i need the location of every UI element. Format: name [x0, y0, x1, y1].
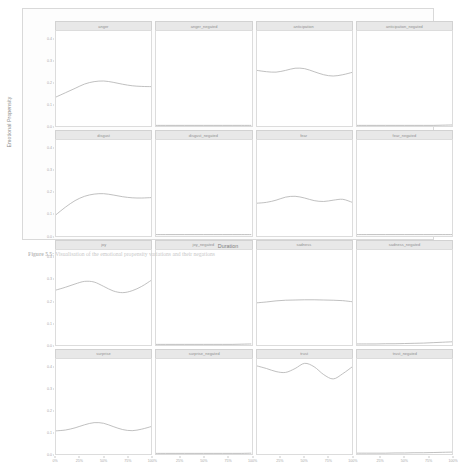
facet-cell-disgust_negated: disgust_negated — [155, 130, 252, 236]
x-tick-mark — [453, 456, 454, 458]
y-tick-mark — [53, 38, 55, 39]
x-tick-mark — [152, 456, 153, 458]
facet-panel-anticipation[interactable] — [256, 30, 353, 127]
facet-cell-trust_negated: 25%50%75%100%trust_negated — [356, 349, 453, 455]
x-tick-label: 50% — [401, 459, 408, 463]
facet-panel-disgust_negated[interactable] — [155, 139, 252, 236]
y-axis-title: Emotional Propensity — [2, 62, 16, 182]
x-tick-mark — [352, 456, 353, 458]
facet-panel-joy_negated[interactable] — [155, 249, 252, 346]
x-tick-mark — [55, 456, 56, 458]
y-tick-label: 0.2 — [47, 300, 52, 304]
facet-strip-fear_negated: fear_negated — [356, 130, 453, 139]
y-tick-mark — [53, 323, 55, 324]
facet-panel-joy[interactable] — [55, 249, 152, 346]
facet-strip-label: anticipation_negated — [386, 24, 423, 29]
y-tick-mark — [53, 301, 55, 302]
facet-cell-anger_negated: anger_negated — [155, 21, 252, 127]
facet-panel-anger[interactable] — [55, 30, 152, 127]
x-tick-mark — [252, 456, 253, 458]
y-tick-mark — [53, 127, 55, 128]
x-tick-label: 75% — [425, 459, 432, 463]
y-tick-mark — [53, 236, 55, 237]
series-line-disgust — [56, 194, 151, 215]
x-tick-mark — [203, 456, 204, 458]
y-tick-label: 0.4 — [47, 365, 52, 369]
facet-strip-label: fear — [301, 133, 308, 138]
series-line-surprise — [56, 422, 151, 430]
facet-panel-anger_negated[interactable] — [155, 30, 252, 127]
facet-cell-anticipation: anticipation — [256, 21, 353, 127]
y-tick-label: 0.4 — [47, 146, 52, 150]
facet-panel-trust[interactable] — [256, 358, 353, 455]
facet-strip-surprise_negated: surprise_negated — [155, 349, 252, 358]
facet-cell-surprise: 0.00.10.20.30.40%25%50%75%100%surprise — [55, 349, 152, 455]
plot-frame: 0.00.10.20.30.4angeranger_negatedanticip… — [22, 8, 434, 240]
y-tick-label: 0.1 — [47, 212, 52, 216]
facet-panel-surprise_negated[interactable] — [155, 358, 252, 455]
facet-strip-label: fear_negated — [393, 133, 416, 138]
y-tick-label: 0.3 — [47, 59, 52, 63]
y-tick-label: 0.4 — [47, 37, 52, 41]
x-tick-mark — [380, 456, 381, 458]
x-tick-mark — [179, 456, 180, 458]
y-tick-label: 0.3 — [47, 387, 52, 391]
y-tick-mark — [53, 214, 55, 215]
facet-strip-anticipation: anticipation — [256, 21, 353, 30]
facet-panel-surprise[interactable] — [55, 358, 152, 455]
x-tick-mark — [304, 456, 305, 458]
y-tick-label: 0.1 — [47, 103, 52, 107]
x-axis-title: Duration — [22, 243, 434, 249]
facet-strip-label: disgust — [97, 133, 110, 138]
facet-strip-label: surprise_negated — [188, 351, 219, 356]
x-tick-mark — [404, 456, 405, 458]
y-tick-mark — [53, 83, 55, 84]
facet-panel-trust_negated[interactable] — [356, 358, 453, 455]
y-tick-mark — [53, 60, 55, 61]
x-tick-label: 100% — [448, 459, 457, 463]
y-tick-mark — [53, 366, 55, 367]
facet-strip-surprise: surprise — [55, 349, 152, 358]
x-tick-mark — [228, 456, 229, 458]
series-line-anticipation — [257, 68, 352, 76]
series-line-trust — [257, 363, 352, 379]
facet-cell-disgust: 0.00.10.20.30.4disgust — [55, 130, 152, 236]
y-tick-label: 0.3 — [47, 168, 52, 172]
x-tick-label: 25% — [76, 459, 83, 463]
y-tick-mark — [53, 170, 55, 171]
facet-strip-label: disgust_negated — [189, 133, 218, 138]
x-tick-mark — [127, 456, 128, 458]
series-line-fear — [257, 197, 352, 204]
facet-strip-trust: trust — [256, 349, 353, 358]
y-tick-label: 0.2 — [47, 409, 52, 413]
facet-panel-fear[interactable] — [256, 139, 353, 236]
y-tick-mark — [53, 105, 55, 106]
x-tick-label: 75% — [325, 459, 332, 463]
facet-strip-anger_negated: anger_negated — [155, 21, 252, 30]
facet-strip-disgust: disgust — [55, 130, 152, 139]
facet-cell-fear: fear — [256, 130, 353, 236]
x-tick-label: 25% — [376, 459, 383, 463]
x-tick-mark — [103, 456, 104, 458]
y-tick-label: 0.3 — [47, 277, 52, 281]
facet-cell-anticipation_negated: anticipation_negated — [356, 21, 453, 127]
facet-panel-sadness[interactable] — [256, 249, 353, 346]
facet-strip-label: anger — [99, 24, 109, 29]
x-axis-ticks: 25%50%75%100% — [356, 456, 453, 466]
facet-panel-fear_negated[interactable] — [356, 139, 453, 236]
facet-strip-disgust_negated: disgust_negated — [155, 130, 252, 139]
facet-panel-sadness_negated[interactable] — [356, 249, 453, 346]
facet-strip-trust_negated: trust_negated — [356, 349, 453, 358]
series-line-sadness_negated — [357, 341, 452, 343]
series-line-trust_negated — [357, 452, 452, 453]
y-tick-mark — [53, 148, 55, 149]
facet-panel-anticipation_negated[interactable] — [356, 30, 453, 127]
figure-caption: Figure 5.5: Visualisation of the emotion… — [28, 250, 424, 258]
y-axis-ticks: 0.00.10.20.30.4 — [42, 139, 54, 236]
x-tick-label: 75% — [124, 459, 131, 463]
x-tick-label: 25% — [276, 459, 283, 463]
y-tick-mark — [53, 192, 55, 193]
series-line-anger — [56, 81, 151, 97]
facet-panel-disgust[interactable] — [55, 139, 152, 236]
